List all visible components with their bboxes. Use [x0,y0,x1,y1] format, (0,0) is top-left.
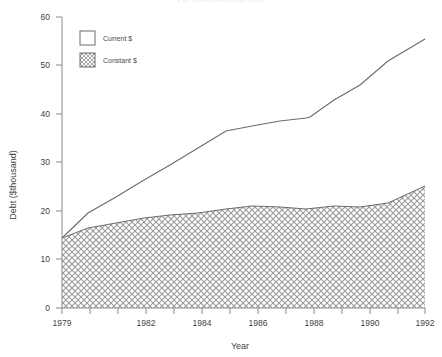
y-tick-label-10: 10 [41,254,51,264]
y-tick-label-0: 0 [45,303,50,313]
x-tick-label-1992: 1992 [416,318,435,328]
x-tick-label-1990: 1990 [361,318,380,328]
y-axis-title: Debt ($thousand) [8,150,18,220]
y-tick-label-50: 50 [41,60,51,70]
x-tick-label-1979: 1979 [53,318,72,328]
x-axis: 1979 1982 1984 1986 1988 1990 1992 Year [53,308,435,351]
x-axis-title: Year [231,341,249,351]
legend-label-current-dollars: Current $ [103,35,132,42]
y-tick-label-30: 30 [41,157,51,167]
legend-item-constant-dollars[interactable]: Constant $ [80,53,137,67]
legend-label-constant-dollars: Constant $ [103,57,137,64]
constant-dollars-area [62,186,425,308]
chart-legend: Current $ Constant $ [80,31,137,67]
x-tick-label-1982: 1982 [137,318,156,328]
y-tick-label-40: 40 [41,109,51,119]
y-tick-label-60: 60 [41,12,51,22]
chart-container: Per Student Average Debt [0,0,442,357]
legend-swatch-current-dollars [80,31,95,45]
chart-svg: 60 50 40 30 20 10 0 Debt ($thousand) [0,0,442,357]
legend-item-current-dollars[interactable]: Current $ [80,31,132,45]
x-tick-label-1984: 1984 [193,318,212,328]
x-tick-label-1988: 1988 [305,318,324,328]
legend-swatch-constant-dollars [80,53,95,67]
y-axis: 60 50 40 30 20 10 0 Debt ($thousand) [8,12,62,313]
x-tick-label-1986: 1986 [249,318,268,328]
y-tick-label-20: 20 [41,206,51,216]
series-constant-dollars [62,186,425,308]
